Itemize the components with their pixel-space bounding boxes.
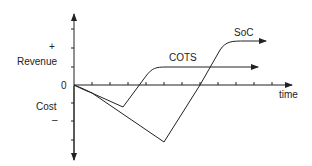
time-axis-label: time — [279, 90, 298, 100]
soc-series-label: SoC — [234, 28, 253, 38]
diagram-canvas — [0, 0, 312, 166]
plus-sign-label: + — [49, 42, 55, 52]
origin-zero-label: 0 — [61, 81, 67, 91]
revenue-label: Revenue — [17, 57, 57, 67]
cots-curve — [74, 67, 258, 107]
cots-series-label: COTS — [169, 53, 197, 63]
minus-sign-label: – — [52, 115, 58, 125]
cost-label: Cost — [36, 102, 57, 112]
